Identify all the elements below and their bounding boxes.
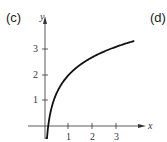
y-tick-1: 1 — [33, 94, 38, 105]
chart: 1 2 3 1 2 3 x y — [0, 0, 167, 142]
x-axis-label: x — [147, 120, 153, 131]
y-axis-label: y — [39, 11, 45, 22]
x-tick-2: 2 — [90, 131, 95, 142]
x-tick-3: 3 — [114, 131, 119, 142]
log-curve — [46, 41, 135, 138]
x-axis-arrow — [138, 124, 146, 128]
y-tick-3: 3 — [33, 43, 38, 54]
x-tick-1: 1 — [66, 131, 71, 142]
y-tick-2: 2 — [33, 69, 38, 80]
